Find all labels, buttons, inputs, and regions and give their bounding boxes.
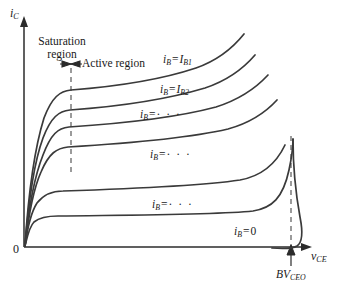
curve-label-ib-ib1: iB=IB1 [163, 53, 192, 68]
y-axis-arrowhead [20, 16, 28, 27]
curve-label-ib-dots-2: iB=· · · [150, 148, 191, 163]
curve-ib-ib2 [25, 55, 255, 246]
origin-label: 0 [13, 243, 19, 256]
x-axis-label: vCE [311, 250, 327, 264]
curve-label-ib-dots-3: iB=· · · [152, 198, 193, 213]
curve-label-ib-dots-1: iB=· · · [140, 108, 181, 123]
curve-label-ib-zero: iB=0 [234, 225, 256, 240]
breakdown-voltage-label: BVCEO [276, 268, 306, 283]
saturation-region-line1: Saturation [26, 35, 98, 48]
y-axis-label: iC [10, 7, 19, 21]
active-region-arrow-marker [60, 61, 82, 67]
active-region-label: Active region [82, 57, 145, 70]
transistor-characteristics-figure: iC vCE 0 BVCEO Saturation region Active … [0, 0, 346, 296]
curve-label-ib-ib2: iB=IB2 [160, 83, 189, 98]
breakdown-foldback-curve [272, 139, 302, 249]
